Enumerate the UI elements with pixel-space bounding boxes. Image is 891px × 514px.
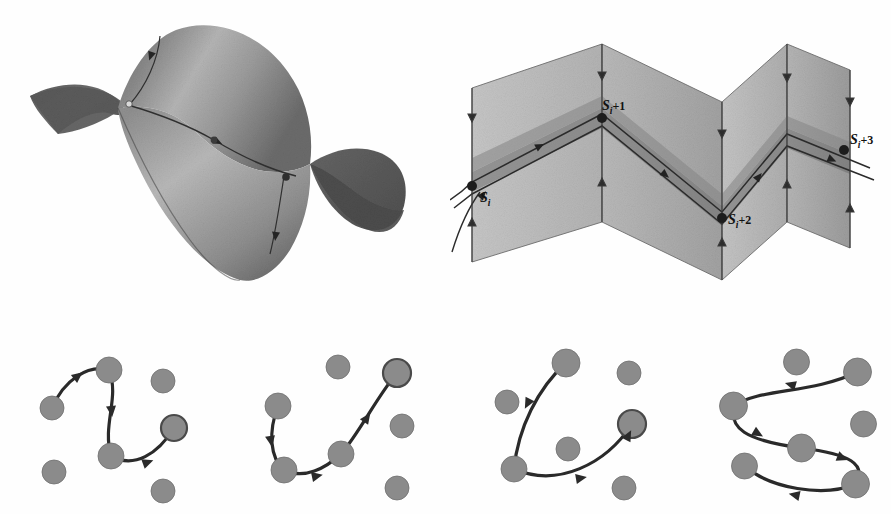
intersection-point-si2 — [717, 213, 727, 223]
graph-node-on-path — [842, 470, 870, 498]
graph-node-on-path — [40, 396, 64, 420]
graph-node-on-path — [788, 434, 816, 462]
graph-node-free — [495, 390, 519, 414]
intersection-point-si3 — [839, 145, 849, 155]
surface-canvas — [0, 0, 450, 320]
node-graph-panel-4 — [672, 336, 891, 514]
surface-left-lobe-lower — [30, 87, 123, 134]
graph-canvas-2 — [228, 336, 456, 514]
graph-node-on-path — [618, 410, 646, 438]
graph-canvas-3 — [452, 336, 680, 514]
graph-node-free — [390, 414, 414, 438]
graph-node-free — [151, 369, 175, 393]
graph-arrowhead — [788, 489, 801, 501]
graph-node-on-path — [720, 392, 748, 420]
graph-arrowhead — [106, 405, 117, 417]
node-graph-panel-1 — [2, 336, 230, 514]
graph-node-free — [385, 476, 409, 500]
graph-node-on-path — [328, 441, 354, 467]
graph-node-free — [784, 349, 810, 375]
node-graph-panel-2 — [228, 336, 456, 514]
graph-node-on-path — [98, 443, 124, 469]
graph-arrowhead — [575, 472, 588, 484]
node-graph-panel-3 — [452, 336, 680, 514]
graph-node-free — [326, 355, 350, 379]
graph-node-on-path — [96, 357, 122, 383]
graph-node-free — [556, 437, 580, 461]
label-s-i-plus-3: Si+3 — [850, 132, 873, 150]
graph-node-on-path — [844, 358, 872, 386]
graph-node-on-path — [271, 457, 297, 483]
graph-node-on-path — [732, 453, 758, 479]
surface-marker-mid — [211, 137, 218, 144]
saddle-surface-3d — [0, 0, 450, 320]
graph-canvas-1 — [2, 336, 230, 514]
graph-node-on-path — [383, 359, 411, 387]
folded-planes-flow: Si Si+1 Si+2 Si+3 — [450, 22, 891, 322]
surface-marker-entry — [126, 101, 132, 107]
graph-node-on-path — [265, 393, 291, 419]
graph-node-free — [612, 476, 636, 500]
intersection-point-si1 — [597, 113, 607, 123]
graph-node-free — [42, 460, 66, 484]
graph-node-on-path — [501, 456, 527, 482]
graph-node-free — [151, 479, 175, 503]
graph-node-free — [851, 411, 877, 437]
graph-node-free — [617, 361, 641, 385]
graph-canvas-4 — [672, 336, 891, 514]
surface-marker-exit — [282, 173, 290, 181]
graph-node-on-path — [552, 349, 580, 377]
folds-canvas: Si Si+1 Si+2 Si+3 — [450, 22, 891, 322]
intersection-point-si — [467, 181, 477, 191]
figure-root: Si Si+1 Si+2 Si+3 — [0, 0, 891, 514]
graph-node-on-path — [161, 415, 187, 441]
